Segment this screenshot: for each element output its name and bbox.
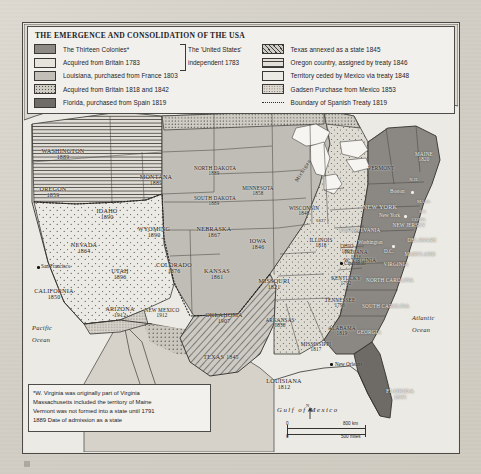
state-label-iowa: IOWA 1846 xyxy=(240,238,276,250)
state-label-oregon: OREGON 1859 xyxy=(28,186,78,198)
legend-item-label: Louisiana, purchased from France 1803 xyxy=(63,72,178,79)
legend-item-label: Texas annexed as a state 1845 xyxy=(291,46,381,53)
state-label-delaware: DELAWARE xyxy=(398,238,446,243)
state-label-new-hampshire: N.H. xyxy=(404,178,424,183)
scale-label-miles: 500 miles xyxy=(341,434,361,439)
state-label-south-carolina: SOUTH CAROLINA xyxy=(362,304,406,309)
state-label-michigan: MICHIGAN 1837 xyxy=(308,214,334,223)
footnote-box: *W. Virginia was originally part of Virg… xyxy=(28,384,211,432)
legend-item-texas-1845: Texas annexed as a state 1845 xyxy=(262,43,448,55)
florida-1819-swatch xyxy=(34,98,56,108)
state-label-arizona: ARIZONA 1912 xyxy=(98,306,142,318)
footnote-line-3: Vermont was not formed into a state unti… xyxy=(33,407,206,416)
scale-label-zero-miles: 0 xyxy=(286,434,289,439)
state-label-georgia: GEORGIA xyxy=(346,330,392,335)
map-page: THE EMERGENCE AND CONSOLIDATION OF THE U… xyxy=(0,0,481,474)
legend-item-label: Acquired from Britain 1783 xyxy=(63,59,140,66)
legend-item-spanish-treaty-1819: Boundary of Spanish Treaty 1819 xyxy=(262,97,448,109)
city-label-new-york: New York xyxy=(379,212,400,218)
legend-item-gadsden-1853: Gadsen Purchase from Mexico 1853 xyxy=(262,83,448,95)
brace-label-line1: The 'United States' xyxy=(188,46,242,53)
city-label-washington: Washington xyxy=(358,239,383,245)
caption-marker-icon xyxy=(24,461,30,467)
legend-item-mexico-cession-1848: Territory ceded by Mexico via treaty 184… xyxy=(262,70,448,82)
state-label-idaho: IDAHO 1890 xyxy=(86,208,128,220)
louisiana-purchase-swatch xyxy=(34,71,56,81)
spanish-treaty-line-swatch xyxy=(262,98,284,108)
legend-item-label: The Thirteen Colonies* xyxy=(63,46,129,53)
state-label-texas: TEXAS1845 xyxy=(194,346,248,362)
scale-label-zero-km: 0 xyxy=(286,421,289,426)
thirteen-colonies-swatch xyxy=(34,44,56,54)
footnote-line-1: *W. Virginia was originally part of Virg… xyxy=(33,389,206,398)
legend-item-label: Acquired from Britain 1818 and 1842 xyxy=(63,86,169,93)
city-dot-new-york xyxy=(404,215,407,218)
map-legend: THE EMERGENCE AND CONSOLIDATION OF THE U… xyxy=(27,26,455,114)
state-label-kentucky: KENTUCKY 1792 xyxy=(322,276,370,286)
mexico-cession-1848-swatch xyxy=(262,71,284,81)
pacific-line2: Ocean xyxy=(32,334,52,346)
state-label-vermont: VERMONT xyxy=(356,166,406,171)
state-label-maryland: MARYLAND xyxy=(396,252,444,257)
scale-bar-km-line xyxy=(287,428,365,429)
legend-item-label: Gadsen Purchase from Mexico 1853 xyxy=(291,86,396,93)
state-label-new-mexico: NEW MEXICO 1912 xyxy=(144,308,180,318)
legend-item-label: Boundary of Spanish Treaty 1819 xyxy=(291,99,387,106)
state-label-maine: MAINE 1820 xyxy=(406,152,442,162)
state-label-virginia: VIRGINIA xyxy=(374,262,418,267)
brace-label: The 'United States' independent 1783 xyxy=(188,44,242,69)
state-label-south-dakota: SOUTH DAKOTA 1889 xyxy=(194,196,234,206)
state-label-mississippi: MISSISSIPPI 1817 xyxy=(292,342,340,352)
brace-label-line2: independent 1783 xyxy=(188,59,239,66)
state-label-ohio: OHIO 1803 xyxy=(330,244,364,254)
pacific-line1: Pacific xyxy=(32,322,52,334)
brace-bracket xyxy=(180,44,186,71)
city-label-dc: D.C. xyxy=(384,248,394,254)
city-dot-new-orleans xyxy=(330,363,333,366)
state-label-minnesota: MINNESOTA 1858 xyxy=(236,186,280,196)
ocean-label-pacific: Pacific Ocean xyxy=(32,322,52,346)
compass-rose: N xyxy=(305,404,315,420)
state-label-connecticut: CONN. xyxy=(404,218,434,223)
state-label-nebraska: NEBRASKA 1867 xyxy=(188,226,240,238)
scale-label-km: 800 km xyxy=(343,421,358,426)
britain-1783-swatch xyxy=(34,58,56,68)
state-label-tennessee: TENNESSEE 1796 xyxy=(316,298,364,308)
state-label-nevada: NEVADA 1864 xyxy=(60,242,108,254)
city-label-san-francisco: San Francisco xyxy=(41,263,70,269)
state-label-pennsylvania: PENNSYLVANIA xyxy=(332,228,388,233)
state-label-washington: WASHINGTON 1889 xyxy=(36,148,90,160)
compass-north-label: N xyxy=(306,403,309,408)
legend-item-florida-1819: Florida, purchased from Spain 1819 xyxy=(34,97,262,109)
state-label-kansas: KANSAS 1861 xyxy=(194,268,240,280)
footnote-line-4: 1889 Date of admission as a state xyxy=(33,416,206,425)
ocean-label-atlantic: Atlantic Ocean xyxy=(412,312,435,336)
city-label-boston: Boston xyxy=(390,188,405,194)
state-label-north-carolina: NORTH CAROLINA xyxy=(366,278,410,283)
state-label-colorado: COLORADO 1876 xyxy=(148,262,200,274)
legend-item-louisiana-purchase: Louisiana, purchased from France 1803 xyxy=(34,70,262,82)
legend-item-label: Oregon country, assigned by treaty 1846 xyxy=(291,59,408,66)
atlantic-line1: Atlantic xyxy=(412,312,435,324)
state-label-arkansas: ARKANSAS 1836 xyxy=(256,318,304,328)
state-label-montana: MONTANA 1889 xyxy=(128,174,184,186)
state-label-north-dakota: NORTH DAKOTA 1889 xyxy=(194,166,234,176)
state-label-florida: FLORIDA 1845 xyxy=(378,388,422,400)
page-caption xyxy=(24,461,454,471)
city-dot-cincinnati xyxy=(340,262,343,265)
state-label-california: CALIFORNIA 1850 xyxy=(26,288,82,300)
state-label-massachusetts: MASS. xyxy=(410,200,438,205)
state-label-oklahoma: OKLAHOMA 1907 xyxy=(198,312,250,324)
atlantic-line2: Ocean xyxy=(412,324,435,336)
city-dot-san-francisco xyxy=(37,266,40,269)
legend-item-label: Territory ceded by Mexico via treaty 184… xyxy=(291,72,410,79)
legend-item-oregon-1846: Oregon country, assigned by treaty 1846 xyxy=(262,56,448,68)
footnote-line-2: Massachusetts included the territory of … xyxy=(33,398,206,407)
legend-title: THE EMERGENCE AND CONSOLIDATION OF THE U… xyxy=(35,31,448,40)
state-label-rhode-island: R.I. xyxy=(412,210,434,215)
state-label-wyoming: WYOMING 1890 xyxy=(128,226,180,238)
state-label-new-jersey: NEW JERSEY xyxy=(392,222,426,229)
scale-tick-end-miles xyxy=(365,431,366,437)
legend-column-right: Texas annexed as a state 1845 Oregon cou… xyxy=(262,43,448,109)
city-label-cincinnati: Cincinnati xyxy=(344,260,366,266)
